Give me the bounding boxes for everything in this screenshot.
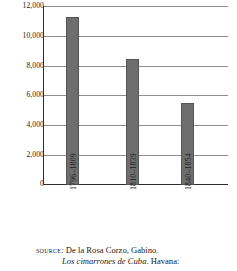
- source-line2: Los cimarrones de Cuba. Havana:: [36, 256, 237, 267]
- gridline-12000: [44, 6, 228, 7]
- source-line2-rest: . Havana:: [146, 256, 179, 266]
- ytick-label-2000: 2,000: [4, 151, 44, 159]
- bar-chart-figure: 12,000 10,000 8,000 6,000 4,000 2,000 0 …: [0, 0, 237, 271]
- ytick-label-12000: 12,000: [4, 2, 44, 10]
- ytick-label-8000: 8,000: [4, 62, 44, 70]
- chart-plot-area: 12,000 10,000 8,000 6,000 4,000 2,000 0 …: [0, 0, 237, 188]
- ytick-label-0: 0: [4, 180, 44, 188]
- xtick-label-1796-1809: 1796–1809: [69, 134, 78, 190]
- source-label: source:: [36, 246, 64, 255]
- source-work-title: Los cimarrones de Cuba: [62, 256, 146, 266]
- xtick-label-1810-1839: 1810–1839: [129, 134, 138, 190]
- xtick-label-1840-1854: 1840–1854: [184, 134, 193, 190]
- y-axis-spine: [43, 6, 44, 185]
- ytick-label-4000: 4,000: [4, 121, 44, 129]
- source-note: source: De la Rosa Corzo, Gabino. Los ci…: [36, 245, 237, 267]
- source-line1-text: De la Rosa Corzo, Gabino.: [64, 245, 159, 255]
- ytick-label-10000: 10,000: [4, 32, 44, 40]
- ytick-label-6000: 6,000: [4, 91, 44, 99]
